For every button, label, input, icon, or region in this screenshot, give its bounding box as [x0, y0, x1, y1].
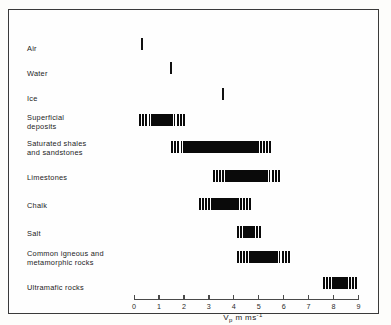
bar-hatch-left	[236, 226, 244, 238]
velocity-range-bar	[138, 114, 185, 126]
velocity-range-bar	[236, 251, 291, 263]
x-axis-tick-label: 2	[177, 302, 191, 311]
bar-hatch-left	[236, 251, 249, 263]
bar-hatch-right	[254, 226, 262, 238]
x-axis-tick	[358, 295, 359, 300]
x-axis-tick	[134, 295, 135, 300]
bar-hatch-right	[259, 141, 272, 153]
row-label: Limestones	[27, 173, 67, 182]
x-axis-tick-label: 6	[277, 302, 291, 311]
velocity-range-bar	[322, 277, 358, 289]
x-axis-tick-label: 0	[127, 302, 141, 311]
velocity-range-bar	[212, 170, 281, 182]
x-axis-tick	[183, 295, 184, 300]
bar-hatch-left	[322, 277, 333, 289]
row-label: Common igneous and metamorphic rocks	[27, 249, 104, 267]
velocity-range-bar	[236, 226, 262, 238]
row-label: Chalk	[27, 201, 47, 210]
row-label: Superficial deposits	[27, 113, 64, 131]
x-axis-tick	[158, 295, 159, 300]
x-axis-tick-label: 4	[227, 302, 241, 311]
x-axis-tick-label: 5	[252, 302, 266, 311]
velocity-range-bar	[198, 198, 252, 210]
velocity-range-bar	[170, 141, 272, 153]
bar-hatch-left	[198, 198, 211, 210]
x-axis-tick-label: 9	[352, 302, 366, 311]
x-axis-tick	[208, 295, 209, 300]
row-label: Salt	[27, 229, 41, 238]
plot-area: AirWaterIceSuperficial depositsSaturated…	[0, 0, 391, 325]
x-axis-line	[134, 299, 359, 300]
axis-title-superscript: -1	[257, 312, 263, 318]
bar-hatch-left	[170, 141, 183, 153]
bar-hatch-right	[278, 251, 291, 263]
x-axis-tick	[308, 295, 309, 300]
x-axis-tick-label: 1	[152, 302, 166, 311]
x-axis-tick-label: 7	[302, 302, 316, 311]
x-axis-tick-label: 3	[202, 302, 216, 311]
bar-hatch-right	[268, 170, 281, 182]
row-label: Water	[27, 69, 48, 78]
x-axis-tick	[233, 295, 234, 300]
bar-hatch-right	[239, 198, 252, 210]
x-axis-tick-label: 8	[327, 302, 341, 311]
x-axis-tick	[258, 295, 259, 300]
velocity-range-bar	[141, 38, 143, 50]
bar-hatch-right	[173, 114, 186, 126]
velocity-range-bar	[222, 88, 224, 100]
bar-hatch-left	[212, 170, 225, 182]
row-label: Saturated shales and sandstones	[27, 139, 86, 157]
figure-container: AirWaterIceSuperficial depositsSaturated…	[0, 0, 391, 325]
row-label: Ice	[27, 94, 38, 103]
x-axis-tick	[283, 295, 284, 300]
bar-hatch-right	[347, 277, 358, 289]
velocity-range-bar	[170, 62, 172, 74]
row-label: Air	[27, 44, 37, 53]
axis-title-unit: m ms	[233, 313, 257, 322]
x-axis-tick	[333, 295, 334, 300]
row-label: Ultramafic rocks	[27, 283, 84, 292]
bar-hatch-left	[138, 114, 151, 126]
x-axis-title: Vp m ms-1	[223, 312, 262, 323]
